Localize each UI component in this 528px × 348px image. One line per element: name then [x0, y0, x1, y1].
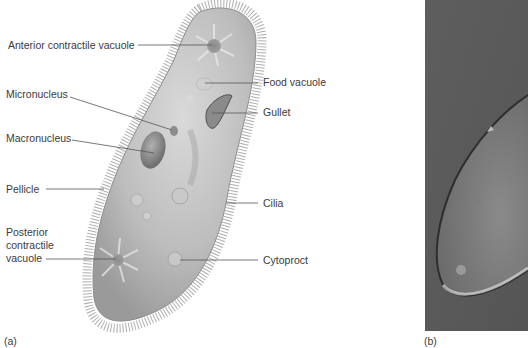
- panel-a-letter: (a): [4, 335, 17, 347]
- label-food-vacuole: Food vacuole: [263, 76, 326, 89]
- label-pellicle: Pellicle: [6, 183, 39, 196]
- label-gullet: Gullet: [263, 106, 290, 119]
- label-cilia: Cilia: [263, 197, 283, 210]
- label-line-3: vacuole: [6, 252, 76, 265]
- micronucleus: [170, 126, 178, 136]
- food-vacuole-upper: [196, 78, 212, 90]
- label-posterior-contractile-vacuole: Posterior contractile vacuole: [6, 226, 76, 265]
- micrograph-panel: [425, 0, 528, 331]
- label-line-1: Posterior: [6, 226, 76, 239]
- micrograph-image: [425, 0, 528, 331]
- cytoproct: [168, 252, 182, 266]
- label-anterior-contractile-vacuole: Anterior contractile vacuole: [8, 39, 135, 52]
- label-micronucleus: Micronucleus: [6, 88, 68, 101]
- label-cytoproct: Cytoproct: [263, 254, 308, 267]
- food-vacuole: [172, 188, 188, 204]
- figure: Anterior contractile vacuole Food vacuol…: [0, 0, 528, 348]
- panel-b-letter: (b): [424, 335, 437, 347]
- label-line-2: contractile: [6, 239, 76, 252]
- label-macronucleus: Macronucleus: [6, 132, 71, 145]
